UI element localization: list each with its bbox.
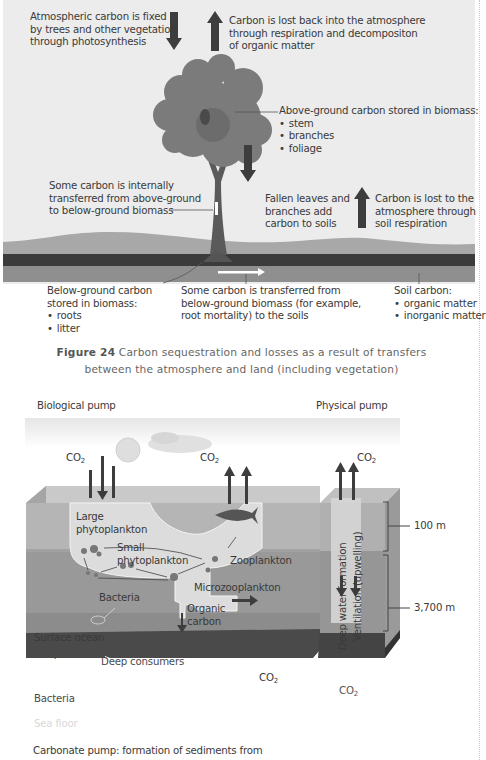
label-organic-carbon: Organic carbon [187,603,225,628]
label-below-ground: Below-ground carbon stored in biomass: r… [47,285,152,335]
label-above-ground: Above-ground carbon stored in biomass: s… [279,105,479,155]
label-biological-pump: Biological pump [37,400,116,413]
co2-label-absorb: CO2 [66,452,85,468]
label-soil-carbon: Soil carbon: organic matter inorganic ma… [394,285,486,323]
label-carbon-fixed: Atmospheric carbon is fixed by trees and… [30,11,177,49]
label-depth-100m: 100 m [414,520,446,533]
label-sea-floor: Sea floor [34,718,78,731]
label-bacteria-lower: Bacteria [34,693,75,706]
co2-label-deep: CO2 [259,672,278,688]
label-deep-consumers: Deep consumers [101,656,184,669]
label-bacteria-upper: Bacteria [99,592,140,605]
label-depth-3700m: 3,700 m [414,602,455,615]
label-zooplankton: Zooplankton [230,555,292,568]
label-surface-ocean: Surface ocean [34,632,104,645]
figure-number: Figure 24 [57,346,116,358]
label-ventilation-upwelling: Ventilation (upwelling) [352,531,365,641]
label-fallen-leaves: Fallen leaves and branches add carbon to… [265,193,350,231]
label-deep-water-formation: Deep water formation [337,541,350,651]
label-physical-pump: Physical pump [316,400,387,413]
label-large-phytoplankton: Large phytoplankton [76,511,147,536]
label-internal-transfer: Some carbon is internally transferred fr… [49,180,201,218]
co2-label-physical-top: CO2 [357,452,376,468]
co2-label-physical-bottom: CO2 [339,685,358,701]
label-deep-ocean: Deep ocean [34,648,93,661]
label-carbon-lost: Carbon is lost back into the atmosphere … [229,15,425,53]
figure-caption: Figure 24 Carbon sequestration and losse… [0,344,483,378]
co2-label-release: CO2 [200,452,219,468]
label-soil-respiration: Carbon is lost to the atmosphere through… [375,193,476,231]
label-microzooplankton: Microzooplankton [194,582,281,595]
label-carbonate-pump: Carbonate pump: formation of sediments f… [33,745,262,758]
label-small-phytoplankton: Small phytoplankton [117,542,188,567]
label-root-transfer: Some carbon is transferred from below-gr… [181,285,361,323]
